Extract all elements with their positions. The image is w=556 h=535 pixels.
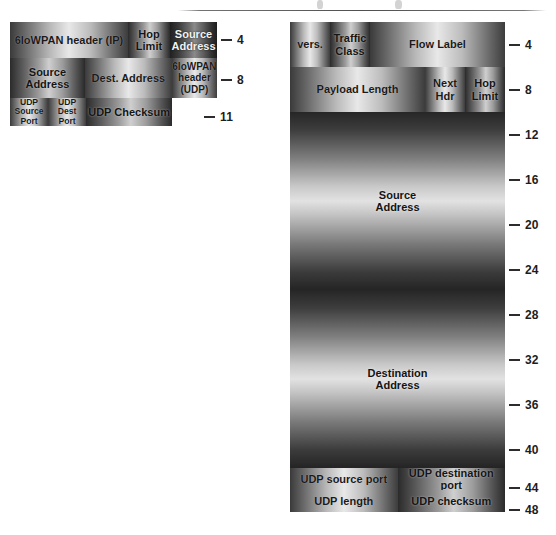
tick-dash-icon [221,79,232,81]
tick-label: 12 [525,128,539,142]
tick-label: 11 [220,110,233,124]
field-udp-source-port: UDP Source Port [10,98,48,126]
field-udp-dest-port: UDP Dest Port [48,98,86,126]
field-6lowpan-header-ip: 6loWPAN header (IP) [10,22,128,58]
packet-row: Source Address Dest. Address 6loWPAN hea… [10,58,217,98]
field-label: UDP Source Port [10,98,48,126]
packet-row: UDP Source Port UDP Dest Port UDP Checks… [10,98,217,126]
field-label: Next Hdr [431,77,459,102]
tick-label: 44 [525,481,539,495]
field-next-header: Next Hdr [425,67,465,112]
field-label: Flow Label [407,38,468,50]
field-udp-checksum: UDP Checksum [86,98,172,126]
tick-label: 8 [237,73,244,87]
offset-tick-8: 8 [221,73,244,87]
offset-tick-40: 40 [509,443,539,457]
field-payload-length: Payload Length [290,67,425,112]
tick-dash-icon [509,359,520,361]
tick-dash-icon [204,116,215,118]
field-label: Payload Length [315,83,401,95]
field-6lowpan-header-udp: 6loWPAN header (UDP) [172,58,217,98]
packet-row: UDP source port UDP destination port [290,468,505,490]
field-label: Hop Limit [134,28,164,53]
offset-tick-44: 44 [509,481,539,495]
page-bleed-mark [395,0,402,9]
tick-dash-icon [509,449,520,451]
tick-dash-icon [509,509,520,511]
field-version: vers. [290,22,330,67]
tick-label: 20 [525,218,539,232]
field-label: UDP Dest Port [48,98,86,126]
offset-tick-11: 11 [204,110,233,124]
field-udp-checksum: UDP checksum [398,490,506,512]
field-label: Source Address [170,28,217,53]
field-source-address-part1: Source Address [170,22,217,58]
field-flow-label: Flow Label [370,22,505,67]
offset-tick-48: 48 [509,503,539,517]
field-label: Traffic Class [331,32,368,57]
tick-label: 48 [525,503,539,517]
tick-dash-icon [509,487,520,489]
tick-dash-icon [221,39,232,41]
field-label: UDP Checksum [86,106,172,118]
packet-row: Source Address [290,112,505,290]
packet-row: UDP length UDP checksum [290,490,505,512]
packet-row: 6loWPAN header (IP) Hop Limit Source Add… [10,22,217,58]
diagram-ipv6-udp-header: vers. Traffic Class Flow Label Payload L… [290,22,505,512]
field-label: UDP source port [298,473,389,485]
tick-label: 28 [525,308,539,322]
tick-dash-icon [509,179,520,181]
diagram-6lowpan-compressed-header: 6loWPAN header (IP) Hop Limit Source Add… [10,22,217,126]
offset-tick-4: 4 [509,38,532,52]
offset-tick-8: 8 [509,83,532,97]
offset-tick-4: 4 [221,33,244,47]
offset-tick-28: 28 [509,308,539,322]
field-label: Dest. Address [90,72,168,84]
tick-dash-icon [509,134,520,136]
tick-dash-icon [509,404,520,406]
field-label: Source Address [373,189,421,214]
tick-label: 4 [237,33,244,47]
offset-tick-32: 32 [509,353,539,367]
tick-dash-icon [509,89,520,91]
field-udp-length: UDP length [290,490,398,512]
tick-dash-icon [509,224,520,226]
offset-tick-20: 20 [509,218,539,232]
field-label: Source Address [23,66,71,91]
tick-label: 16 [525,173,539,187]
page-bleed-mark [317,0,323,9]
field-label: UDP checksum [409,495,493,507]
field-hop-limit: Hop Limit [128,22,170,58]
field-label: UDP length [312,495,375,507]
offset-tick-24: 24 [509,263,539,277]
field-label: Destination Address [366,367,430,392]
field-udp-source-port: UDP source port [290,468,398,490]
field-destination-address: Destination Address [290,290,505,468]
field-source-address: Source Address [290,112,505,290]
tick-dash-icon [509,314,520,316]
packet-row: Payload Length Next Hdr Hop Limit [290,67,505,112]
field-traffic-class: Traffic Class [330,22,370,67]
field-label: 6loWPAN header (UDP) [172,61,217,95]
packet-row: vers. Traffic Class Flow Label [290,22,505,67]
field-label: vers. [295,38,325,50]
tick-label: 40 [525,443,539,457]
field-udp-destination-port: UDP destination port [398,468,506,490]
tick-label: 4 [525,38,532,52]
tick-label: 24 [525,263,539,277]
tick-label: 32 [525,353,539,367]
field-label: Hop Limit [470,77,500,102]
offset-tick-36: 36 [509,398,539,412]
field-hop-limit: Hop Limit [465,67,505,112]
tick-dash-icon [509,269,520,271]
field-label: 6loWPAN header (IP) [13,34,126,46]
tick-dash-icon [509,44,520,46]
field-label: UDP destination port [398,468,506,490]
packet-row: Destination Address [290,290,505,468]
tick-label: 36 [525,398,539,412]
offset-tick-16: 16 [509,173,539,187]
page-rule [178,10,546,11]
offset-tick-12: 12 [509,128,539,142]
tick-label: 8 [525,83,532,97]
field-dest-address: Dest. Address [85,58,172,98]
